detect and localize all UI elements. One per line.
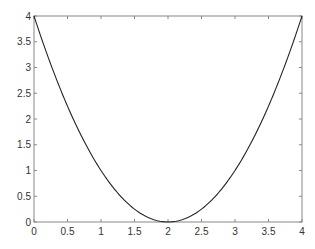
y-tick-label: 0.5 [17, 191, 31, 202]
x-tick-label: 1 [98, 226, 104, 237]
y-tick-label: 1 [25, 165, 31, 176]
y-tick-label: 3 [25, 62, 31, 73]
y-tick-label: 0 [25, 217, 31, 228]
x-tick-labels: 00.511.522.533.54 [31, 226, 305, 237]
axes-box [34, 16, 302, 222]
y-tick-label: 3.5 [17, 36, 31, 47]
plot-frame [34, 16, 302, 222]
chart-figure: 00.511.522.533.54 00.511.522.533.54 [0, 0, 315, 249]
x-tick-label: 2 [165, 226, 171, 237]
x-tick-label: 3.5 [262, 226, 276, 237]
data-curve [34, 16, 302, 222]
y-tick-label: 4 [25, 11, 31, 22]
x-tick-label: 0 [31, 226, 37, 237]
x-tick-label: 1.5 [128, 226, 142, 237]
y-tick-labels: 00.511.522.533.54 [17, 11, 31, 228]
y-tick-label: 2 [25, 114, 31, 125]
x-tick-label: 3 [232, 226, 238, 237]
x-tick-label: 0.5 [61, 226, 75, 237]
y-tick-label: 2.5 [17, 88, 31, 99]
axis-ticks [34, 16, 302, 222]
y-tick-label: 1.5 [17, 139, 31, 150]
x-tick-label: 4 [299, 226, 305, 237]
x-tick-label: 2.5 [195, 226, 209, 237]
